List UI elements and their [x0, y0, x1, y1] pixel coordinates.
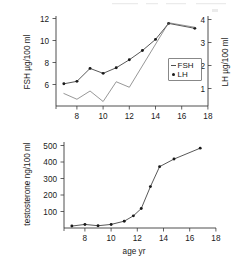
top-xtick-label: 10	[99, 112, 109, 121]
top-ytick-label: 6	[44, 81, 49, 90]
legend-item-lh: LH	[178, 70, 188, 79]
top-legend[interactable]: FSH LH	[169, 59, 202, 81]
top-right-ytick-label: 4	[200, 16, 205, 25]
top-xtick-label: 18	[203, 112, 213, 121]
testosterone-chart-svg: 500 400 300 200 100 testosterone ng/100 …	[0, 128, 243, 266]
top-x-axis: 8 10 12 14 16 18	[56, 106, 213, 121]
data-point-fsh	[102, 72, 105, 75]
top-ytick-label: 10	[40, 37, 50, 46]
data-point-fsh	[89, 67, 92, 70]
data-point-testosterone	[97, 224, 100, 227]
scan-artifacts	[112, 3, 226, 12]
bottom-xtick-label: 16	[185, 234, 195, 243]
gonadotropins-chart-panel: 12 10 8 6 FSH µg/100 ml 4 3 2 1 LH µg/10…	[0, 0, 243, 128]
gonadotropins-chart-svg: 12 10 8 6 FSH µg/100 ml 4 3 2 1 LH µg/10…	[0, 0, 243, 128]
data-point-testosterone	[70, 225, 73, 228]
top-ytick-label: 8	[44, 59, 49, 68]
bottom-x-axis-title: age yr	[123, 247, 146, 256]
bottom-left-axis-title: testosterone ng/100 ml	[23, 142, 32, 225]
data-point-testosterone	[123, 220, 126, 223]
hormone-levels-figure: 12 10 8 6 FSH µg/100 ml 4 3 2 1 LH µg/10…	[0, 0, 243, 266]
data-point-testosterone	[149, 185, 152, 188]
top-xtick-label: 8	[75, 112, 80, 121]
top-xtick-label: 16	[177, 112, 187, 121]
top-right-y-axis: 4 3 2 1 LH µg/100 ml	[200, 16, 230, 107]
top-ytick-label: 12	[40, 15, 50, 24]
data-point-fsh	[154, 38, 157, 41]
top-right-axis-title: LH µg/100 ml	[221, 37, 230, 86]
data-point-fsh	[128, 58, 131, 61]
bottom-x-axis: 8 10 12 14 16 18 age yr	[64, 228, 221, 256]
data-point-fsh	[115, 66, 118, 69]
data-point-testosterone	[84, 223, 87, 226]
series-line-testosterone	[72, 148, 200, 226]
data-point-testosterone	[199, 147, 202, 150]
bottom-ytick-label: 300	[43, 175, 57, 184]
top-left-axis-title: FSH µg/100 ml	[23, 34, 32, 89]
data-point-testosterone	[158, 165, 161, 168]
top-xtick-label: 14	[151, 112, 161, 121]
bottom-ytick-label: 200	[43, 191, 57, 200]
bottom-xtick-label: 14	[159, 234, 169, 243]
bottom-series-layer	[70, 147, 201, 228]
data-point-testosterone	[140, 207, 143, 210]
bottom-xtick-label: 12	[133, 234, 143, 243]
top-right-ytick-label: 1	[200, 85, 205, 94]
bottom-xtick-label: 8	[83, 234, 88, 243]
bottom-xtick-label: 18	[211, 234, 221, 243]
legend-lh-dot-swatch	[172, 73, 175, 76]
data-point-fsh	[141, 49, 144, 52]
bottom-ytick-label: 400	[43, 158, 57, 167]
bottom-xtick-label: 10	[107, 234, 117, 243]
top-right-ytick-label: 3	[200, 39, 205, 48]
bottom-ytick-label: 500	[43, 142, 57, 151]
data-point-testosterone	[173, 158, 176, 161]
data-point-fsh	[62, 82, 65, 85]
bottom-left-y-axis: 500 400 300 200 100 testosterone ng/100 …	[23, 142, 64, 229]
top-left-y-axis: 12 10 8 6 FSH µg/100 ml	[23, 15, 56, 107]
data-point-fsh	[76, 80, 79, 83]
data-point-testosterone	[132, 214, 135, 217]
testosterone-chart-panel: 500 400 300 200 100 testosterone ng/100 …	[0, 128, 243, 266]
top-xtick-label: 12	[125, 112, 135, 121]
data-point-testosterone	[110, 223, 113, 226]
bottom-ytick-label: 100	[43, 208, 57, 217]
legend-item-fsh: FSH	[178, 61, 194, 70]
